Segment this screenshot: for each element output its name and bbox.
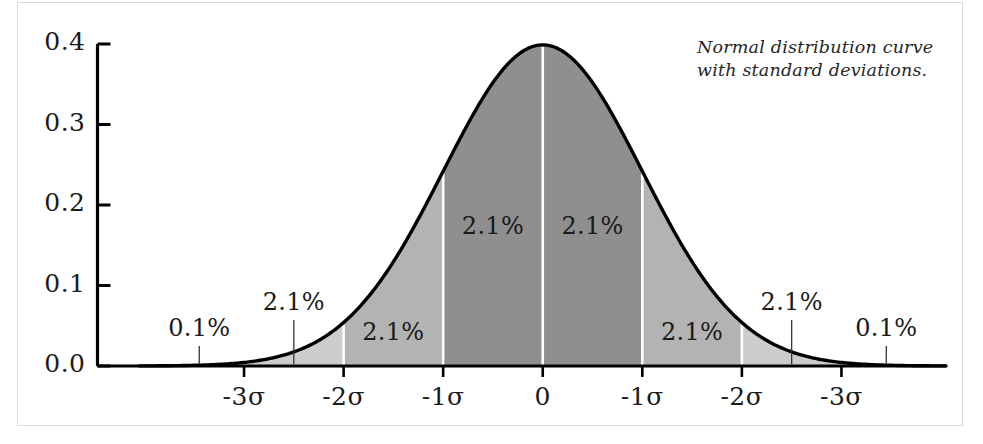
y-tick-label: 0.4 xyxy=(18,27,86,56)
x-tick-label: -1σ xyxy=(393,382,493,411)
y-tick-label: 0.0 xyxy=(18,349,86,378)
y-axis-ticks xyxy=(98,44,111,366)
x-axis-ticks xyxy=(244,366,841,377)
x-tick-label: -1σ xyxy=(592,382,692,411)
percent-label: 2.1% xyxy=(239,288,349,316)
caption-line-2: with standard deviations. xyxy=(697,59,937,82)
percent-label: 2.1% xyxy=(737,288,847,316)
x-tick-label: -2σ xyxy=(294,382,394,411)
percent-label: 2.1% xyxy=(438,212,548,240)
y-tick-label: 0.2 xyxy=(18,188,86,217)
percent-label: 0.1% xyxy=(144,314,254,342)
band-1 xyxy=(244,32,344,368)
y-tick-label: 0.1 xyxy=(18,269,86,298)
band-separators xyxy=(244,47,841,365)
x-tick-label: -2σ xyxy=(692,382,792,411)
percent-label: 0.1% xyxy=(831,314,941,342)
y-tick-label: 0.3 xyxy=(18,108,86,137)
x-tick-label: -3σ xyxy=(791,382,891,411)
normal-distribution-figure: 0.00.10.20.30.4 -3σ-2σ-1σ0-1σ-2σ-3σ 0.1%… xyxy=(0,0,983,444)
caption-line-1: Normal distribution curve xyxy=(697,36,937,59)
percent-label: 2.1% xyxy=(338,318,448,346)
percent-label: 2.1% xyxy=(538,212,648,240)
x-tick-label: -3σ xyxy=(194,382,294,411)
percent-label: 2.1% xyxy=(637,318,747,346)
x-tick-label: 0 xyxy=(493,382,593,411)
band-6 xyxy=(742,32,842,368)
figure-caption: Normal distribution curve with standard … xyxy=(697,36,937,82)
